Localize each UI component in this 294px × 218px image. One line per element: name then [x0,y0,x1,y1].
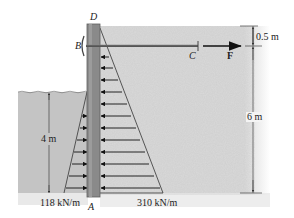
dim-label-4m: 4 m [41,133,56,145]
anchor-plate-b [82,36,84,56]
label-point-d: D [90,12,97,22]
sheet-pile-wall [87,24,100,197]
load-label-right: 310 kN/m [137,198,177,208]
soil-backfill [100,26,270,207]
load-label-left: 118 kN/m [40,198,80,208]
label-point-c: C [189,51,196,61]
label-point-b: B [75,41,81,51]
sheet-pile-diagram: D B C F A 0.5 m 6 m 4 m 118 kN/m 310 kN/… [0,0,294,218]
label-point-a: A [88,202,94,212]
dim-label-0-5m: 0.5 m [256,32,279,42]
dim-label-6m: 6 m [246,112,263,122]
label-force-f: F [227,51,233,61]
